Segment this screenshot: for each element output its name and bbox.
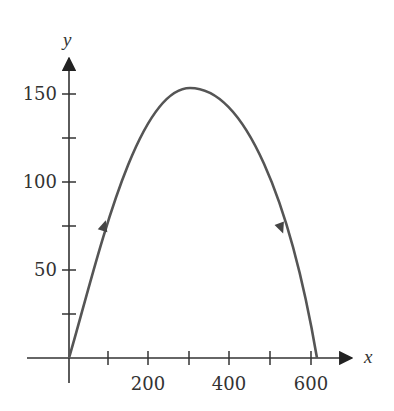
y-tick-label-50: 50 [34,259,57,280]
y-tick-label-100: 100 [23,171,57,192]
x-tick-label-600: 600 [294,373,328,394]
trajectory-curve [69,88,317,358]
y-axis-label: y [61,29,72,50]
x-axis-label: x [363,346,373,367]
x-tick-label-400: 400 [212,373,246,394]
y-tick-label-150: 150 [23,83,57,104]
chart: 200 400 600 50 100 150 x y [0,0,394,411]
x-tick-label-200: 200 [131,373,165,394]
